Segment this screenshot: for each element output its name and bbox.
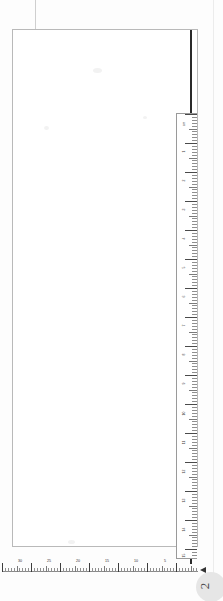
ruler-tick-minor (192, 453, 197, 454)
ruler-tick-minor (11, 568, 12, 572)
ruler-tick-major (185, 491, 197, 492)
ruler-tick-minor (192, 189, 197, 190)
ruler-tick-minor (54, 568, 55, 572)
ruler-tick-minor (77, 568, 78, 572)
ruler-tick-minor (192, 123, 197, 124)
ruler-tick-minor (80, 568, 81, 572)
ruler-tick-minor (192, 340, 197, 341)
ruler-tick-minor (83, 568, 84, 572)
ruler-tick-minor (192, 329, 197, 330)
ruler-tick-minor (192, 117, 197, 118)
horizontal-ruler-label: 25 (47, 560, 51, 564)
ruler-tick-major (31, 563, 32, 572)
ruler-tick-minor (192, 474, 197, 475)
ruler-tick-minor (192, 282, 197, 283)
ruler-tick-minor (192, 349, 197, 350)
horizontal-ruler-label: 15 (105, 560, 109, 564)
vertical-ruler-label: 6 (183, 296, 186, 298)
ruler-tick-minor (192, 323, 197, 324)
ruler-tick-minor (150, 568, 151, 572)
ruler-tick-minor (22, 568, 23, 572)
ruler-tick-minor (192, 479, 197, 480)
ruler-tick-major (185, 404, 197, 405)
ruler-tick-minor (124, 568, 125, 572)
ruler-tick-major (2, 563, 3, 572)
ruler-tick-minor (189, 506, 197, 507)
page-crease-line (35, 0, 36, 31)
vertical-ruler-label: 3 (183, 209, 186, 211)
ruler-tick-major (185, 462, 197, 463)
ruler-tick-minor (192, 320, 197, 321)
ruler-tick-major (176, 563, 177, 572)
ruler-tick-minor (86, 568, 87, 572)
ruler-tick-minor (192, 546, 197, 547)
ruler-tick-minor (192, 424, 197, 425)
ruler-tick-minor (192, 503, 197, 504)
ruler-tick-minor (192, 334, 197, 335)
ruler-tick-minor (173, 568, 174, 572)
ruler-tick-minor (170, 568, 171, 572)
ruler-tick-minor (101, 568, 102, 572)
vertical-ruler-label: 14 (183, 528, 186, 532)
ruler-tick-minor (189, 245, 197, 246)
ruler-tick-minor (19, 568, 20, 572)
ruler-tick-minor (135, 568, 136, 572)
ruler-tick-minor (192, 387, 197, 388)
ruler-tick-minor (192, 210, 197, 211)
paper-smudge (44, 126, 49, 130)
ruler-tick-minor (192, 398, 197, 399)
ruler-tick-minor (192, 511, 197, 512)
ruler-tick-minor (192, 485, 197, 486)
ruler-tick-minor (130, 568, 131, 572)
vertical-ruler-label: 11 (183, 441, 186, 445)
ruler-tick-minor (192, 152, 197, 153)
ruler-tick-minor (192, 181, 197, 182)
ruler-tick-minor (189, 448, 197, 449)
vertical-ruler-label: 5 (183, 267, 186, 269)
ruler-tick-major (185, 172, 197, 173)
ruler-tick-minor (182, 568, 183, 572)
ruler-tick-minor (192, 442, 197, 443)
ruler-tick-minor (192, 227, 197, 228)
ruler-tick-minor (192, 178, 197, 179)
ruler-tick-minor (192, 308, 197, 309)
ruler-tick-minor (192, 410, 197, 411)
ruler-tick-minor (28, 568, 29, 572)
ruler-tick-minor (189, 390, 197, 391)
ruler-tick-minor (192, 253, 197, 254)
ruler-tick-major (185, 317, 197, 318)
ruler-tick-minor (192, 268, 197, 269)
ruler-tick-minor (192, 384, 197, 385)
horizontal-ruler-label: 20 (76, 560, 80, 564)
ruler-tick-minor (192, 526, 197, 527)
ruler-tick-minor (192, 358, 197, 359)
ruler-tick-minor (48, 568, 49, 572)
ruler-tick-minor (192, 372, 197, 373)
ruler-tick-minor (192, 363, 197, 364)
ruler-tick-minor (192, 276, 197, 277)
scan-right-edge (213, 0, 214, 601)
vertical-ruler-label: 7 (183, 325, 186, 327)
ruler-tick-minor (192, 439, 197, 440)
ruler-tick-minor (192, 366, 197, 367)
ruler-tick-minor (57, 568, 58, 572)
ruler-tick-minor (192, 436, 197, 437)
ruler-tick-minor (192, 279, 197, 280)
ruler-tick-minor (192, 192, 197, 193)
ruler-tick-minor (188, 568, 189, 572)
ruler-tick-minor (192, 427, 197, 428)
ruler-tick-minor (162, 566, 163, 572)
ruler-tick-minor (164, 568, 165, 572)
ruler-tick-minor (192, 413, 197, 414)
ruler-tick-minor (192, 126, 197, 127)
ruler-tick-minor (192, 163, 197, 164)
ruler-tick-minor (189, 303, 197, 304)
ruler-tick-minor (153, 568, 154, 572)
ruler-tick-minor (127, 568, 128, 572)
ruler-tick-minor (69, 568, 70, 572)
ruler-tick-major (185, 230, 197, 231)
ruler-tick-minor (167, 568, 168, 572)
ruler-tick-major (185, 259, 197, 260)
ruler-tick-minor (192, 552, 197, 553)
ruler-tick-minor (106, 568, 107, 572)
